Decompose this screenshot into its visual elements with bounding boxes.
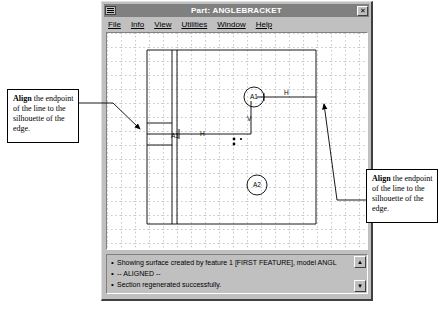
scroll-down-icon[interactable]: ▼ <box>354 280 366 292</box>
message-line: • -- ALIGNED -- <box>109 268 353 279</box>
message-text: Showing surface created by feature 1 [FI… <box>117 257 337 268</box>
label-v: V <box>247 115 252 122</box>
window-title: Part: ANGLEBRACKET <box>116 5 357 16</box>
message-list: • Showing surface created by feature 1 [… <box>109 257 353 291</box>
screenshot-root: Part: ANGLEBRACKET ✕ File Info View Util… <box>0 0 444 318</box>
label-h-lower: H <box>200 130 205 137</box>
menu-item-help[interactable]: Help <box>256 20 272 30</box>
system-menu-icon[interactable] <box>105 6 116 15</box>
message-line: • Section regenerated successfully. <box>109 279 353 290</box>
label-a1-circle: A1 <box>250 93 258 100</box>
close-icon[interactable]: ✕ <box>357 6 368 16</box>
sketch-geometry: A1 A2 A1 H H V <box>107 33 368 250</box>
endpoint-dot-1 <box>233 138 236 141</box>
message-scrollbar[interactable]: ▲ ▼ <box>354 256 366 292</box>
callout-left: Align the endpoint of the line to the si… <box>7 89 79 143</box>
callout-right-keyword: Align <box>372 174 391 183</box>
menu-item-utilities-label: Utilities <box>181 20 207 29</box>
menu-item-window[interactable]: Window <box>217 20 245 30</box>
menu-item-info-label: Info <box>131 20 144 29</box>
menu-item-help-label: Help <box>256 20 272 29</box>
message-window: • Showing surface created by feature 1 [… <box>106 254 368 294</box>
label-a2-circle: A2 <box>253 181 261 188</box>
endpoint-dot-3 <box>240 138 242 140</box>
menu-item-utilities[interactable]: Utilities <box>181 20 207 30</box>
callout-right: Align the endpoint of the line to the si… <box>366 169 438 223</box>
message-text: Section regenerated successfully. <box>117 279 221 290</box>
menu-item-file-label: File <box>108 20 121 29</box>
callout-left-keyword: Align <box>13 94 32 103</box>
label-h-upper: H <box>284 89 289 96</box>
application-window: Part: ANGLEBRACKET ✕ File Info View Util… <box>101 1 373 301</box>
menu-item-view-label: View <box>154 20 171 29</box>
graphics-canvas[interactable]: A1 A2 A1 H H V <box>106 32 368 250</box>
label-a1-inline: A1 <box>171 132 179 139</box>
title-bar: Part: ANGLEBRACKET ✕ <box>104 4 369 17</box>
menu-item-info[interactable]: Info <box>131 20 144 30</box>
scroll-up-icon[interactable]: ▲ <box>354 256 366 268</box>
menu-item-view[interactable]: View <box>154 20 171 30</box>
menu-bar: File Info View Utilities Window Help <box>104 18 369 31</box>
scrollbar-track[interactable] <box>354 268 366 280</box>
message-line: • Showing surface created by feature 1 [… <box>109 257 353 268</box>
endpoint-dot-2 <box>233 143 236 146</box>
message-text: -- ALIGNED -- <box>117 268 161 279</box>
menu-item-window-label: Window <box>217 20 245 29</box>
menu-item-file[interactable]: File <box>108 20 121 30</box>
